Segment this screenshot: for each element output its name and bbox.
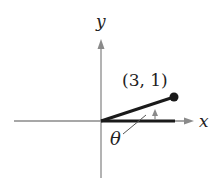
y-axis-arrow-icon <box>98 39 105 49</box>
y-axis-label: y <box>95 11 106 31</box>
point-label: (3, 1) <box>122 70 168 90</box>
point-marker <box>170 93 179 102</box>
x-axis-label: x <box>199 111 209 131</box>
angle-diagram: y x (3, 1) θ <box>0 0 218 181</box>
theta-label: θ <box>110 128 121 149</box>
x-axis-arrow-icon <box>184 118 194 125</box>
theta-leader-line <box>123 115 146 134</box>
terminal-side <box>101 97 174 121</box>
angle-arrow-icon <box>152 109 158 116</box>
y-axis <box>98 39 105 178</box>
